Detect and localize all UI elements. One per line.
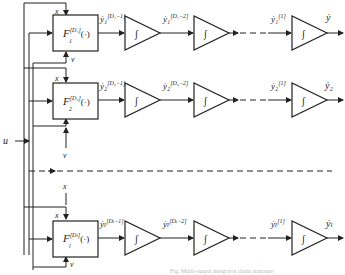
rowl-x-top-label: x	[62, 182, 67, 191]
row-2: x v F[D₂](·) 2 ẏ₂[D₂−1] ∫ ẏ₂[D₂−2] ∫ ẏ₂[…	[29, 74, 343, 160]
block-diagram: u x v F[D₁](·) 1 ẏ₁[D₁−1] ∫ ẏ₁[D₁−2] ∫ ẏ…	[0, 0, 345, 275]
figure-caption: Fig. Multi-output integrator chain struc…	[170, 268, 274, 274]
rowl-v-label: v	[70, 260, 74, 269]
f2-block	[53, 83, 98, 119]
row1-v-label: v	[71, 55, 75, 64]
rowl-integrator-2	[194, 221, 229, 255]
row2-sig1-label: ẏ₂[D₂−1]	[99, 80, 126, 91]
input-label-u: u	[3, 135, 8, 146]
rowl-x-feed	[24, 207, 66, 219]
f1-block	[53, 15, 98, 51]
row1-integrator-3	[292, 16, 327, 50]
row1-sig3-label: ẏ₁[1]	[270, 13, 286, 24]
row1-v-arrow	[33, 52, 66, 63]
row2-sig3-label: ẏ₂[1]	[270, 80, 286, 91]
rowl-sig2-label: ẏₗ[Dₗ−2]	[162, 218, 187, 229]
row2-v-label: v	[63, 151, 67, 160]
row1-integrator-2	[194, 16, 229, 50]
row2-integrator-2	[194, 83, 229, 117]
row2-integrator-3	[292, 83, 327, 117]
row1-integrator-1	[125, 16, 160, 50]
rowl-v-arrow	[33, 257, 66, 267]
row1-sig2-label: ẏ₁[D₁−2]	[162, 13, 189, 24]
row2-integrator-1	[125, 83, 160, 117]
rowl-x-label: x	[54, 211, 59, 220]
row1-sig1-label: ẏ₁[D₁−1]	[99, 13, 126, 24]
rowl-sig3-label: ẏₗ[1]	[270, 218, 286, 229]
row2-x-label: x	[54, 74, 59, 83]
row-l: x x v F[Dₗ](·) l ẏₗ[Dₗ−1] ∫ ẏₗ[Dₗ−2] ∫ ẏ…	[24, 182, 343, 269]
fl-block	[53, 221, 98, 257]
row2-v-bus-arrow	[33, 119, 66, 126]
rowl-output-label: ẏₗ	[325, 218, 333, 229]
row2-x-feed	[24, 68, 66, 82]
row1-output-label: ẏ	[325, 12, 331, 23]
row2-sig2-label: ẏ₂[D₂−2]	[162, 80, 189, 91]
rowl-sig1-label: ẏₗ[Dₗ−1]	[99, 218, 124, 229]
f1-subscript: 1	[69, 38, 72, 44]
rowl-integrator-1	[125, 221, 160, 255]
f2-subscript: 2	[69, 106, 72, 112]
row2-output-label: ẏ₂	[324, 80, 333, 91]
rowl-integrator-3	[292, 221, 327, 255]
row-1: x v F[D₁](·) 1 ẏ₁[D₁−1] ∫ ẏ₁[D₁−2] ∫ ẏ₁[…	[29, 7, 343, 64]
